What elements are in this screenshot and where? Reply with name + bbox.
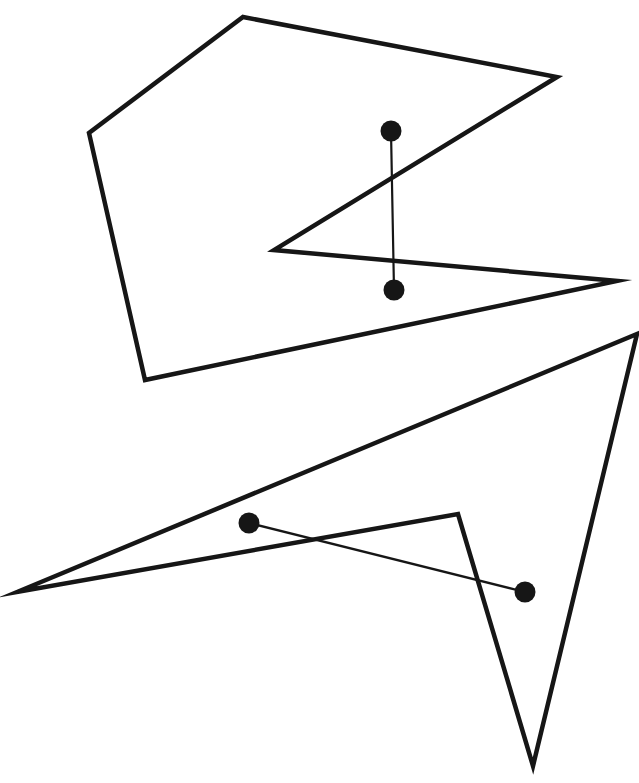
diagram-canvas xyxy=(0,0,639,783)
lower-segment-endpoint-left xyxy=(239,513,260,534)
background xyxy=(0,0,639,783)
upper-segment-endpoint-top xyxy=(381,121,402,142)
upper-segment-endpoint-bottom xyxy=(384,280,405,301)
lower-segment-endpoint-right xyxy=(515,582,536,603)
